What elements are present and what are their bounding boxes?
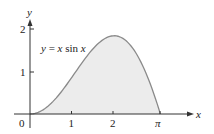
y-axis-arrow-icon: [28, 19, 33, 26]
chart-canvas: 0 1 2 π 1 2 x y y = x sin x: [0, 0, 214, 134]
x-tick-label-pi: π: [155, 117, 161, 129]
y-axis-label: y: [26, 6, 32, 18]
x-axis-label: x: [195, 108, 201, 120]
x-tick-label-2: 2: [110, 117, 116, 129]
origin-label: 0: [19, 117, 25, 129]
y-tick-label-2: 2: [20, 23, 26, 35]
x-tick-label-1: 1: [69, 117, 75, 129]
function-label: y = x sin x: [40, 42, 86, 54]
x-axis-arrow-icon: [187, 112, 194, 117]
y-tick-label-1: 1: [20, 66, 26, 78]
